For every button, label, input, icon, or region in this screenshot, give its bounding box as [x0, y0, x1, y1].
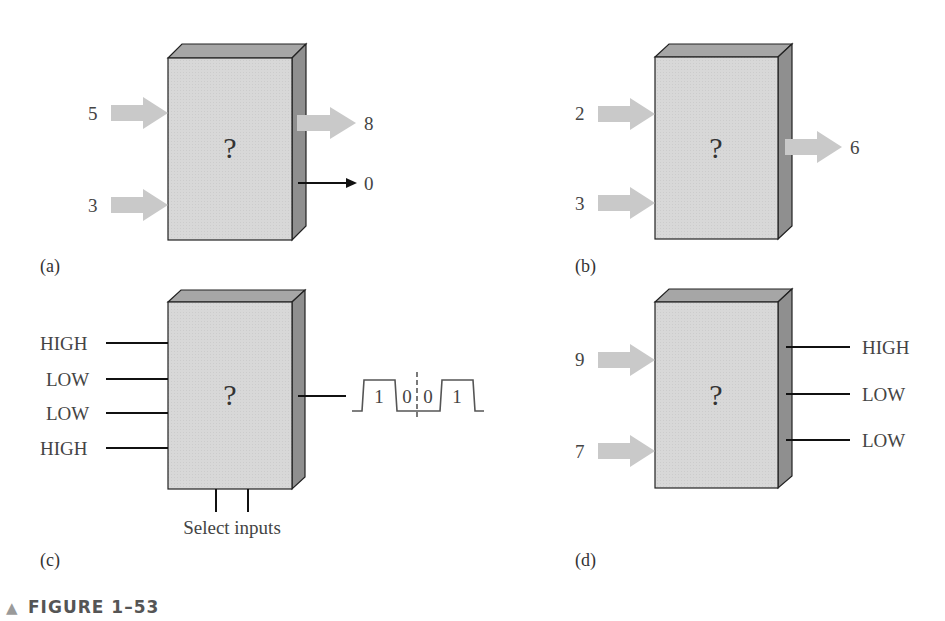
svg-text:LOW: LOW — [46, 369, 89, 390]
input-arrow-2: 3 — [88, 189, 168, 221]
figure-canvas: ? 5 3 8 0 (a) ? 2 — [0, 0, 945, 621]
block-box: ? — [655, 289, 792, 488]
svg-text:3: 3 — [575, 193, 585, 214]
figure-caption: ▲ FIGURE 1–53 — [6, 597, 159, 617]
output-arrow-wide: 6 — [785, 131, 860, 163]
svg-text:HIGH: HIGH — [862, 337, 910, 358]
input-arrow-1: 9 — [575, 344, 655, 376]
panel-a: ? 5 3 8 0 (a) — [40, 44, 374, 277]
panel-caption: (a) — [40, 256, 60, 277]
svg-text:5: 5 — [88, 103, 98, 124]
unknown-function-label: ? — [709, 131, 722, 164]
output-arrow-wide: 8 — [297, 107, 374, 139]
data-input-1: HIGH — [40, 333, 168, 354]
figure-title: FIGURE 1–53 — [28, 597, 159, 617]
data-input-4: HIGH — [40, 438, 168, 459]
data-input-3: LOW — [46, 403, 168, 424]
block-box: ? — [655, 44, 792, 239]
svg-text:HIGH: HIGH — [40, 333, 88, 354]
data-input-2: LOW — [46, 369, 168, 390]
svg-text:9: 9 — [575, 349, 585, 370]
input-arrow-1: 5 — [88, 97, 168, 129]
block-box: ? — [168, 290, 305, 489]
svg-text:3: 3 — [88, 195, 98, 216]
unknown-function-label: ? — [223, 131, 236, 164]
triangle-marker-icon: ▲ — [6, 599, 18, 617]
unknown-function-label: ? — [223, 378, 236, 411]
svg-text:6: 6 — [850, 137, 860, 158]
svg-text:LOW: LOW — [862, 430, 905, 451]
panel-caption: (b) — [575, 256, 596, 277]
output-waveform: 1 0 0 1 — [352, 372, 484, 418]
svg-text:0: 0 — [364, 173, 374, 194]
svg-text:1: 1 — [452, 386, 462, 407]
input-arrow-1: 2 — [575, 98, 655, 130]
input-arrow-2: 3 — [575, 187, 655, 219]
svg-text:7: 7 — [575, 441, 585, 462]
panel-d: ? 9 7 HIGH LOW LOW (d) — [575, 289, 910, 571]
output-line-1: HIGH — [786, 337, 910, 358]
output-line-3: LOW — [786, 430, 905, 451]
svg-text:LOW: LOW — [46, 403, 89, 424]
select-inputs: Select inputs — [183, 489, 281, 538]
svg-text:HIGH: HIGH — [40, 438, 88, 459]
input-arrow-2: 7 — [575, 435, 655, 467]
panel-caption: (c) — [40, 550, 60, 571]
svg-text:0: 0 — [423, 386, 433, 407]
panel-caption: (d) — [575, 550, 596, 571]
svg-text:2: 2 — [575, 103, 585, 124]
svg-text:0: 0 — [402, 386, 412, 407]
svg-text:8: 8 — [364, 113, 374, 134]
unknown-function-label: ? — [709, 378, 722, 411]
panel-b: ? 2 3 6 (b) — [575, 44, 860, 277]
output-line-arrow: 0 — [298, 173, 374, 194]
output-line-2: LOW — [786, 384, 905, 405]
svg-text:LOW: LOW — [862, 384, 905, 405]
svg-text:Select inputs: Select inputs — [183, 517, 281, 538]
svg-text:1: 1 — [374, 386, 384, 407]
block-box: ? — [168, 44, 306, 240]
panel-c: ? HIGH LOW LOW HIGH Select inputs — [40, 290, 484, 571]
